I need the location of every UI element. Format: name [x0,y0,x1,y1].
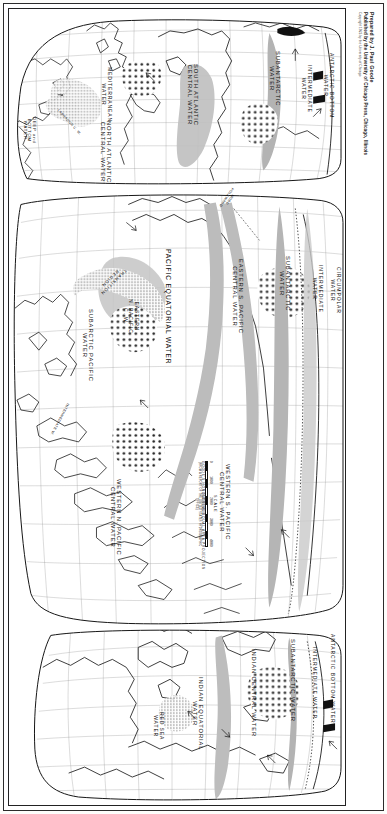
scale-tick-labels: 0 1000 2000 3000 4000 [209,461,213,547]
scale-tick-3: 3000 [209,518,213,526]
projection-note: GOODE'S HOMOLOSINE EQUAL AREA PROJECTION [201,461,205,570]
credit-author: Prepared by J. Paul Goode [369,12,375,83]
scale-title: SCALE [213,461,217,547]
scale-tick-2: 2000 [209,497,213,505]
goode-homolosine-world-map [9,9,345,805]
credit-copyright: Copyright 1923 by the University of Chic… [358,12,362,76]
scale-bar-graphic [205,461,208,547]
publication-credit: Prepared by J. Paul Goode Published by t… [349,6,385,186]
mediterranean-water-area [122,60,162,96]
scale-tick-1: 1000 [209,476,213,484]
scale-tick-0: 0 [209,461,213,463]
scale-tick-4: 4000 [209,539,213,547]
screenshot-root: DEEP and BOTTOM WATERLABRADOR C. W.MEDIT… [0,0,387,814]
map-canvas: DEEP and BOTTOM WATERLABRADOR C. W.MEDIT… [8,8,346,806]
pacific-lobe [9,194,345,630]
atlantic-lobe [9,9,345,199]
scale-bar: SCALE 0 1000 2000 3000 4000 STATUTE MILE… [195,461,217,547]
credit-publisher: Published by the University of Chicago P… [363,12,368,155]
indian-lobe [9,623,345,805]
